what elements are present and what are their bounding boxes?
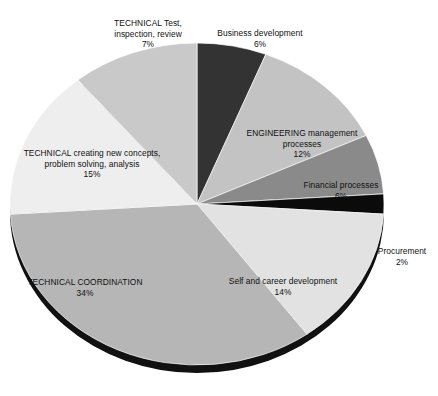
slice-label-percent: 14%	[213, 287, 353, 297]
slice-label-line1: TECHNICAL creating new concepts,	[24, 148, 161, 158]
slice-label-percent: 2%	[367, 257, 437, 267]
slice-label-self-and-career-development: Self and career development 14%	[213, 266, 353, 307]
slice-label-line2: inspection, review	[114, 29, 181, 39]
slice-label-line1: ENGINEERING management	[247, 128, 358, 138]
slice-label-technical-creating-new-concepts: TECHNICAL creating new concepts, problem…	[4, 138, 180, 189]
slice-label-financial-processes: Financial processes 6%	[276, 170, 406, 211]
slice-label-technical-test: TECHNICAL Test, inspection, review 7%	[84, 8, 212, 59]
slice-label-line2: problem solving, analysis	[45, 159, 140, 169]
slice-label-percent: 12%	[228, 149, 376, 159]
slice-label-percent: 7%	[84, 39, 212, 49]
slice-label-percent: 6%	[196, 39, 324, 49]
slice-label-procurement: Procurement 2%	[367, 236, 437, 277]
slice-label-line2: processes	[283, 139, 322, 149]
slice-label-line1: Self and career development	[229, 276, 337, 286]
slice-label-line1: TECHNICAL COORDINATION	[27, 277, 142, 287]
slice-label-line1: TECHNICAL Test,	[114, 18, 182, 28]
slice-label-percent: 34%	[13, 288, 157, 298]
slice-label-line1: Financial processes	[304, 180, 379, 190]
slice-label-line1: Procurement	[378, 246, 427, 256]
pie-chart-page: TECHNICAL Test, inspection, review 7% Bu…	[0, 0, 438, 396]
slice-label-technical-coordination: TECHNICAL COORDINATION 34%	[13, 267, 157, 308]
slice-label-engineering-management-processes: ENGINEERING management processes 12%	[228, 118, 376, 169]
slice-label-percent: 15%	[4, 169, 180, 179]
slice-label-business-development: Business development 6%	[196, 18, 324, 59]
slice-label-line1: Business development	[217, 28, 302, 38]
slice-label-percent: 6%	[276, 191, 406, 201]
